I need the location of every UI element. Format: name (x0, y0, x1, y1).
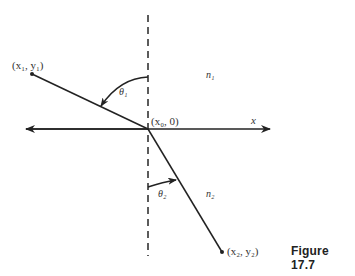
incident-ray (32, 74, 148, 129)
theta1-label: θ₁ (119, 87, 127, 97)
figure-caption: Figure 17.7 (291, 244, 355, 272)
n2-label: n₂ (206, 189, 214, 199)
point-1-dot (30, 72, 34, 76)
theta2-label: θ₂ (158, 189, 166, 199)
origin-label: (x₀, 0) (151, 116, 179, 127)
point-1-label: (x₁, y₁) (12, 60, 44, 71)
x-axis-label: x (251, 115, 256, 126)
n1-label: n₁ (206, 70, 214, 80)
point-2-dot (220, 250, 224, 254)
point-2-label: (x₂, y₂) (227, 246, 259, 257)
theta2-arc (148, 180, 176, 187)
refraction-diagram (0, 0, 355, 276)
